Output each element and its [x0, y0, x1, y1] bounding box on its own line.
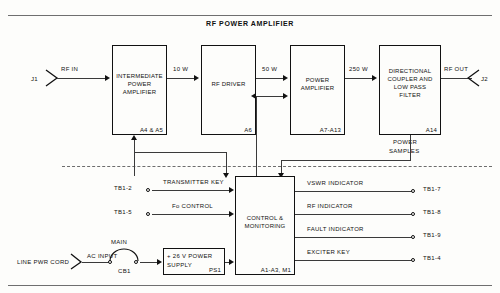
block-control-line2: MONITORING [236, 223, 294, 230]
output-terminal-dot-tb1-4[interactable] [411, 258, 415, 262]
power-level-250w: 250 W [349, 66, 368, 73]
wire-control-to-ipa-drop [226, 152, 227, 175]
wire-control-to-tb1-7 [295, 191, 412, 192]
arrow-into-driver [194, 75, 199, 81]
power-level-10w: 10 W [173, 66, 188, 73]
j2-connector-icon [467, 68, 481, 92]
wire-control-to-tb1-8 [295, 214, 412, 215]
block-ipa-line3: AMPLIFIER [113, 89, 166, 96]
j1-connector-icon [45, 68, 59, 92]
power-samples-label-line1: POWER [393, 139, 417, 146]
block-control-designator: A1-A3, M1 [261, 267, 291, 273]
block-pa-line1: POWER [291, 77, 344, 84]
wire-bus-to-pa [256, 96, 285, 97]
arrow-transmitter-key-in [229, 187, 234, 193]
block-supply-line2: SUPPLY [167, 262, 192, 268]
wire-control-to-tb1-9 [295, 237, 412, 238]
input-terminal-dot-tb1-5[interactable] [146, 212, 150, 216]
input-terminal-label-tb1-2: TB1-2 [114, 185, 132, 192]
output-terminal-label-tb1-4: TB1-4 [423, 255, 441, 262]
wire-control-bus-vertical [256, 96, 257, 176]
input-terminal-label-tb1-5: TB1-5 [114, 209, 132, 216]
rf-in-label: RF IN [61, 66, 78, 73]
breaker-terminal-right[interactable] [134, 260, 138, 264]
arrow-into-power-supply [157, 259, 162, 265]
block-pa-designator: A7-A13 [320, 127, 341, 133]
block-rf-driver[interactable]: RF DRIVER A6 [201, 45, 256, 135]
block-power-amplifier[interactable]: POWER AMPLIFIER A7-A13 [290, 45, 345, 135]
wire-control-to-ipa-rise [134, 152, 135, 176]
block-supply-designator: PS1 [209, 267, 221, 273]
block-coupler-designator: A14 [426, 127, 437, 133]
block-intermediate-power-amplifier[interactable]: INTERMEDIATE POWER AMPLIFIER A4 & A5 [112, 45, 167, 135]
output-connector-label: J2 [481, 76, 488, 83]
wire-coupler-sample-drop [410, 135, 411, 160]
rf-out-label: RF OUT [444, 66, 468, 73]
breaker-designator-cb1: CB1 [118, 268, 131, 275]
arrow-into-coupler [372, 75, 377, 81]
block-ipa-designator: A4 & A5 [140, 127, 163, 133]
wire-pa-to-coupler [345, 78, 374, 79]
wire-tb1-2-to-control [152, 190, 230, 191]
wire-tb1-5-to-control [152, 214, 230, 215]
arrow-fo-control-in [229, 211, 234, 217]
block-supply-line1: + 26 V POWER [167, 253, 212, 259]
output-signal-fault-indicator: FAULT INDICATOR [307, 226, 364, 233]
output-terminal-label-tb1-8: TB1-8 [423, 209, 441, 216]
wire-control-to-ipa-run [134, 152, 226, 153]
block-coupler-line4: FILTER [380, 92, 440, 99]
wire-j1-to-ipa [57, 78, 107, 79]
output-terminal-label-tb1-9: TB1-9 [423, 232, 441, 239]
frame-top-rule [8, 15, 492, 16]
output-terminal-dot-tb1-7[interactable] [411, 189, 415, 193]
line-cord-connector-icon [70, 252, 83, 275]
output-terminal-label-tb1-7: TB1-7 [423, 186, 441, 193]
wire-sample-run [281, 160, 411, 161]
input-signal-fo-control: Fo CONTROL [172, 203, 213, 210]
arrow-bus-into-pa [283, 93, 288, 99]
output-signal-vswr-indicator: VSWR INDICATOR [307, 180, 363, 187]
arrow-into-ipa [105, 75, 110, 81]
block-coupler-line2: COUPLER AND [380, 76, 440, 83]
block-control-monitoring[interactable]: CONTROL & MONITORING A1-A3, M1 [235, 176, 295, 275]
input-signal-transmitter-key: TRANSMITTER KEY [163, 179, 224, 186]
block-coupler-line1: DIRECTIONAL [380, 68, 440, 75]
arrow-control-branch-left [223, 173, 229, 178]
output-terminal-dot-tb1-8[interactable] [411, 212, 415, 216]
wire-ipa-bottom-stub [134, 140, 135, 153]
block-driver-line1: RF DRIVER [202, 81, 255, 88]
block-driver-designator: A6 [244, 127, 252, 133]
circuit-breaker-arc-icon[interactable] [107, 247, 141, 267]
input-connector-label: J1 [31, 76, 38, 83]
wire-cord-to-breaker [82, 262, 110, 263]
output-signal-rf-indicator: RF INDICATOR [307, 203, 353, 210]
input-terminal-dot-tb1-2[interactable] [146, 188, 150, 192]
section-divider [62, 166, 492, 167]
wire-ipa-to-driver [167, 78, 196, 79]
block-ipa-line2: POWER [113, 81, 166, 88]
block-pa-line2: AMPLIFIER [291, 85, 344, 92]
power-level-50w: 50 W [262, 66, 277, 73]
breaker-main-label: MAIN [111, 239, 127, 246]
line-power-cord-label: LINE PWR CORD [17, 259, 69, 266]
output-signal-exciter-key: EXCITER KEY [307, 249, 350, 256]
arrow-into-pa [283, 75, 288, 81]
block-coupler-line3: LOW PASS [380, 84, 440, 91]
diagram-title: RF POWER AMPLIFIER [0, 20, 500, 27]
output-terminal-dot-tb1-9[interactable] [411, 235, 415, 239]
frame-bottom-rule [8, 285, 492, 286]
arrow-supply-into-control [229, 259, 234, 265]
diagram-canvas: RF POWER AMPLIFIER J1 RF IN INTERMEDIATE… [0, 0, 500, 293]
block-control-line1: CONTROL & [236, 215, 294, 222]
block-ipa-line1: INTERMEDIATE [113, 73, 166, 80]
power-samples-label-line2: SAMPLES [389, 148, 419, 155]
block-power-supply[interactable]: + 26 V POWER SUPPLY PS1 [163, 248, 225, 275]
wire-driver-to-pa [256, 78, 285, 79]
block-directional-coupler-lpf[interactable]: DIRECTIONAL COUPLER AND LOW PASS FILTER … [379, 45, 441, 135]
wire-control-to-tb1-4 [295, 260, 412, 261]
